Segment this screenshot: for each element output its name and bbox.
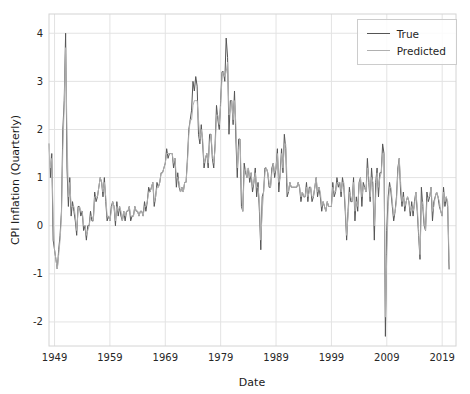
y-tick-label: 2 (37, 124, 43, 135)
y-tick-label: 0 (37, 220, 43, 231)
legend-line-swatch (367, 50, 390, 51)
x-tick-label: 1999 (319, 352, 344, 363)
legend-entry-predicted: Predicted (367, 42, 446, 59)
x-tick-label: 2009 (374, 352, 399, 363)
x-tick-label: 1959 (97, 352, 122, 363)
legend-label: True (397, 28, 419, 40)
legend-line-swatch (367, 33, 390, 34)
y-tick-label: 1 (37, 172, 43, 183)
legend-label: Predicted (397, 45, 446, 57)
x-axis-label: Date (239, 376, 265, 389)
legend: TruePredicted (357, 19, 457, 65)
y-tick-label: 3 (37, 76, 43, 87)
y-tick-label: -1 (33, 268, 43, 279)
legend-entry-true: True (367, 25, 446, 42)
x-tick-label: 1969 (153, 352, 178, 363)
x-tick-label: 1989 (263, 352, 288, 363)
x-tick-label: 1949 (42, 352, 67, 363)
x-tick-label: 2019 (429, 352, 454, 363)
x-tick-label: 1979 (208, 352, 233, 363)
y-tick-label: 4 (37, 28, 43, 39)
y-axis-label: CPI Inflation (Quarterly) (9, 115, 22, 245)
y-tick-label: -2 (33, 316, 43, 327)
cpi-inflation-chart: 19491959196919791989199920092019-2-10123… (0, 0, 470, 394)
